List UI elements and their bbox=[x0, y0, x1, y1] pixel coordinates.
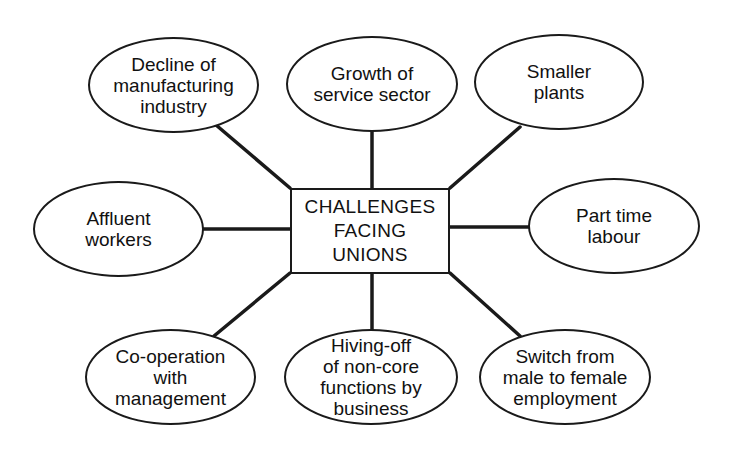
center-topic-box: CHALLENGES FACING UNIONS bbox=[290, 188, 450, 274]
node-cooperation-management: Co-operation with management bbox=[85, 329, 256, 425]
node-affluent-workers: Affluent workers bbox=[33, 181, 204, 277]
node-hiving-off: Hiving-off of non-core functions by busi… bbox=[284, 329, 458, 425]
node-male-to-female: Switch from male to female employment bbox=[479, 329, 651, 425]
node-smaller-plants: Smaller plants bbox=[474, 34, 644, 130]
node-decline-manufacturing: Decline of manufacturing industry bbox=[88, 37, 259, 133]
node-part-time-labour: Part time labour bbox=[528, 178, 700, 274]
connector-smaller-plants bbox=[450, 127, 520, 188]
connector-male-to-female bbox=[450, 273, 520, 336]
connector-decline-manufacturing bbox=[216, 125, 290, 188]
connector-cooperation-management bbox=[214, 273, 290, 336]
node-growth-service: Growth of service sector bbox=[286, 36, 458, 132]
